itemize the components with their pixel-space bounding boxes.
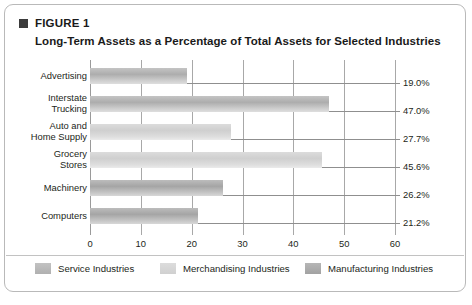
category-label: Machinery	[5, 183, 87, 194]
leader-line	[329, 111, 400, 112]
leader-line	[198, 223, 400, 224]
x-axis-tick-50: 50	[339, 238, 349, 249]
legend-label: Merchandising Industries	[183, 263, 290, 274]
x-axis-tick-30: 30	[237, 238, 247, 249]
gridline-40	[293, 60, 294, 235]
x-axis-tick-20: 20	[186, 238, 196, 249]
x-axis-tick-40: 40	[288, 238, 298, 249]
x-axis-tick-10: 10	[136, 238, 146, 249]
category-label: Advertising	[5, 71, 87, 82]
value-label: 47.0%	[403, 105, 430, 116]
gridline-50	[344, 60, 345, 235]
legend-swatch	[305, 263, 321, 274]
category-label: Computers	[5, 211, 87, 222]
value-label: 45.6%	[403, 161, 430, 172]
leader-line	[322, 167, 400, 168]
legend-label: Manufacturing Industries	[328, 263, 433, 274]
legend-divider	[6, 255, 464, 256]
x-axis-tick-0: 0	[87, 238, 92, 249]
leader-line	[187, 83, 400, 84]
figure-header: FIGURE 1 Long-Term Assets as a Percentag…	[19, 16, 453, 47]
leader-line	[223, 195, 400, 196]
bar	[90, 152, 322, 168]
figure-label-row: FIGURE 1	[19, 16, 453, 30]
legend-swatch	[35, 263, 51, 274]
legend-swatch	[160, 263, 176, 274]
value-label: 27.7%	[403, 133, 430, 144]
figure-card: FIGURE 1 Long-Term Assets as a Percentag…	[4, 4, 466, 292]
category-label: GroceryStores	[5, 149, 87, 170]
leader-line	[231, 139, 400, 140]
gridline-60	[395, 60, 396, 235]
bar	[90, 180, 223, 196]
legend-item: Merchandising Industries	[160, 263, 290, 274]
category-label: Auto andHome Supply	[5, 121, 87, 142]
x-axis-tick-60: 60	[390, 238, 400, 249]
legend-item: Service Industries	[35, 263, 134, 274]
y-axis-category-labels: AdvertisingInterstateTruckingAuto andHom…	[5, 60, 87, 235]
plot-area	[90, 60, 395, 235]
value-label: 21.2%	[403, 217, 430, 228]
value-label: 19.0%	[403, 77, 430, 88]
legend-item: Manufacturing Industries	[305, 263, 433, 274]
bar	[90, 68, 187, 84]
figure-number: FIGURE 1	[35, 17, 90, 29]
square-bullet-icon	[19, 19, 28, 28]
bar	[90, 124, 231, 140]
figure-title: Long-Term Assets as a Percentage of Tota…	[35, 35, 453, 47]
bar	[90, 208, 198, 224]
chart-plot: AdvertisingInterstateTruckingAuto andHom…	[5, 60, 465, 256]
category-label: InterstateTrucking	[5, 93, 87, 114]
legend-label: Service Industries	[58, 263, 134, 274]
value-label: 26.2%	[403, 189, 430, 200]
chart-legend: Service IndustriesMerchandising Industri…	[5, 263, 465, 283]
bar	[90, 96, 329, 112]
gridline-30	[243, 60, 244, 235]
